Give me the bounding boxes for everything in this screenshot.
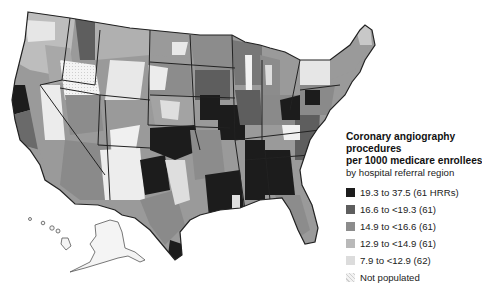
legend-subtitle: by hospital referral region	[346, 167, 469, 179]
legend-label: 16.6 to <19.3 (61)	[360, 204, 436, 215]
swatch-icon	[346, 273, 355, 282]
legend-label: 14.9 to <16.6 (61)	[360, 221, 436, 232]
alaska	[70, 220, 145, 272]
legend-item-low: 12.9 to <14.9 (61)	[346, 235, 469, 252]
legend-label: Not populated	[360, 272, 420, 283]
legend-item-lowest: 7.9 to <12.9 (62)	[346, 252, 469, 269]
legend-item-middle: 14.9 to <16.6 (61)	[346, 218, 469, 235]
legend-title-line-3: per 1000 medicare enrollees	[346, 155, 469, 167]
legend-item-high: 16.6 to <19.3 (61)	[346, 201, 469, 218]
legend-label: 7.9 to <12.9 (62)	[360, 255, 431, 266]
legend-title-line-2: procedures	[346, 143, 469, 155]
swatch-icon	[346, 222, 355, 231]
hawaii	[29, 218, 72, 251]
legend-item-highest: 19.3 to 37.5 (61 HRRs)	[346, 184, 469, 201]
swatch-icon	[346, 205, 355, 214]
legend-label: 19.3 to 37.5 (61 HRRs)	[360, 187, 459, 198]
legend-label: 12.9 to <14.9 (61)	[360, 238, 436, 249]
swatch-icon	[346, 256, 355, 265]
map-legend: Coronary angiography procedures per 1000…	[346, 131, 469, 284]
legend-title-line-1: Coronary angiography	[346, 131, 469, 143]
swatch-icon	[346, 239, 355, 248]
legend-item-not-populated: Not populated	[346, 269, 469, 284]
swatch-icon	[346, 188, 355, 197]
